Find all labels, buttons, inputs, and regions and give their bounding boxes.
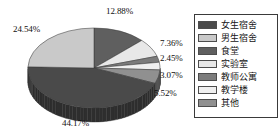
pie-slice-side [62,103,65,118]
pie-slice-side [66,104,69,119]
pie-slice-男生宿舍[interactable] [28,28,94,68]
pie-slice-side [95,108,99,122]
legend-color-swatch [198,86,217,94]
pie-chart-svg [0,0,192,138]
pie-slice-side [114,105,118,120]
legend-item-label: 教师公寓 [221,72,257,82]
pie-slice-side [59,102,62,117]
legend-item[interactable]: 男生宿舍 [198,31,275,44]
pie-slice-side [147,90,149,106]
pie-slice-side [134,98,137,113]
legend-color-swatch [198,60,217,68]
legend-color-swatch [198,21,217,29]
legend-item-label: 食堂 [221,46,239,56]
slice-label-24-54: 24.54% [13,24,40,34]
pie-slice-side [56,101,59,116]
slice-label-5-52: 5.52% [154,88,177,98]
legend-item-label: 教学楼 [221,85,248,95]
pie-slice-side [131,100,134,115]
legend-item[interactable]: 实验室 [198,57,275,70]
pie-slice-side [137,97,140,113]
pie-slice-side [34,85,36,101]
pie-slice-side [140,95,143,111]
legend-item-label: 实验室 [221,59,248,69]
legend-color-swatch [198,47,217,55]
pie-slice-side [118,104,122,119]
pie-slice-side [45,94,48,110]
slice-label-2-45: 2.45% [160,53,183,63]
pie-slice-side [91,108,95,122]
slice-label-3-07: 3.07% [160,70,183,80]
legend-item-label: 其他 [221,98,239,108]
legend-item[interactable]: 教师公寓 [198,70,275,83]
legend: 女生宿舍男生宿舍食堂实验室教师公寓教学楼其他 [194,14,278,118]
legend-item[interactable]: 教学楼 [198,83,275,96]
pie-slice-side [121,103,124,118]
pie-chart-figure: 12.88% 24.54% 7.36% 2.45% 3.07% 5.52% 44… [0,0,278,138]
slice-label-44-17: 44.17% [62,118,89,128]
pie-slice-side [143,93,145,109]
pie-slice-side [40,91,42,107]
pie-slice-side [150,88,152,104]
pie-slice-side [36,87,38,103]
pie-slice-side [50,98,53,113]
legend-color-swatch [198,99,217,107]
legend-item-label: 女生宿舍 [221,20,257,30]
legend-item-label: 男生宿舍 [221,33,257,43]
pie-slice-side [103,107,107,121]
pie-slice-side [47,96,50,112]
pie-slice-side [99,108,103,122]
slice-label-7-36: 7.36% [160,38,183,48]
legend-item[interactable]: 其他 [198,96,275,109]
pie-slice-group [28,28,160,108]
legend-color-swatch [198,73,217,81]
pie-slice-side [53,99,56,114]
legend-color-swatch [198,34,217,42]
pie-slice-side [128,101,131,116]
pie-slice-side [145,91,147,107]
slice-label-12-88: 12.88% [106,6,133,16]
pie-slice-side [125,102,128,117]
pie-chart-plot-area [0,0,192,138]
legend-item[interactable]: 食堂 [198,44,275,57]
pie-slice-side [107,107,111,122]
pie-slice-side [110,106,114,121]
pie-slice-side [38,89,40,105]
pie-slice-side [42,93,44,109]
legend-item[interactable]: 女生宿舍 [198,18,275,31]
